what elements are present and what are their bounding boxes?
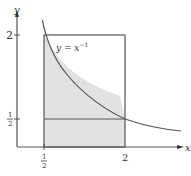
y-axis-label: y [13, 4, 20, 15]
x-axis-label: x [185, 142, 191, 153]
eq-exponent: −1 [79, 41, 88, 48]
chart: y x 2 1 2 1 2 2 y = x−1 [0, 0, 191, 176]
eq-equals: = [61, 43, 74, 53]
x-axis-arrow-icon [177, 145, 184, 149]
x-tick-label-2: 2 [122, 152, 128, 163]
x-tick-label-half-den: 2 [42, 162, 46, 170]
function-label: y = x−1 [55, 41, 88, 53]
y-tick-label-half-den: 2 [8, 120, 12, 128]
y-tick-label-half-num: 1 [8, 111, 12, 119]
x-tick-label-half-num: 1 [42, 153, 46, 161]
y-tick-label-2: 2 [6, 29, 13, 42]
